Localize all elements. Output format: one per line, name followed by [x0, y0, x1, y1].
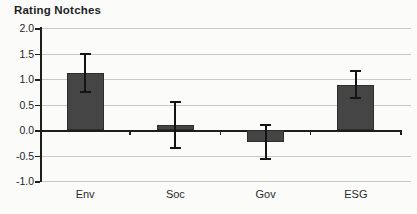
x-axis-tick — [400, 130, 402, 135]
gridline — [40, 181, 411, 182]
plot-area: 2.01.51.00.50.0-0.5-1.0EnvSocGovESG — [0, 0, 417, 214]
x-axis-tick — [310, 130, 312, 135]
error-bar-cap-bottom-soc — [170, 147, 181, 149]
rating-notches-bar-chart: Rating Notches 2.01.51.00.50.0-0.5-1.0En… — [0, 0, 417, 214]
error-bar-gov — [265, 125, 267, 159]
y-axis-tick-label: -1.0 — [0, 175, 34, 187]
y-axis-line — [40, 27, 42, 182]
error-bar-cap-bottom-gov — [260, 158, 271, 160]
x-axis-label-gov: Gov — [236, 188, 296, 200]
error-bar-cap-top-gov — [260, 124, 271, 126]
y-axis-tick-label: 1.5 — [0, 48, 34, 60]
x-axis-label-soc: Soc — [145, 188, 205, 200]
y-axis-tick-label: 0.5 — [0, 99, 34, 111]
gridline — [40, 156, 411, 157]
x-axis-tick — [129, 130, 131, 135]
error-bar-esg — [355, 71, 357, 98]
x-axis-label-env: Env — [55, 188, 115, 200]
x-axis-label-esg: ESG — [326, 188, 386, 200]
gridline — [40, 54, 411, 55]
error-bar-cap-bottom-env — [80, 91, 91, 93]
x-axis-tick — [220, 130, 222, 135]
y-axis-tick-label: 1.0 — [0, 73, 34, 85]
y-axis-tick-label: -0.5 — [0, 150, 34, 162]
error-bar-cap-bottom-esg — [350, 97, 361, 99]
error-bar-env — [84, 54, 86, 92]
gridline — [40, 28, 411, 29]
y-axis-tick-label: 0.0 — [0, 124, 34, 136]
error-bar-soc — [174, 102, 176, 148]
error-bar-cap-top-esg — [350, 70, 361, 72]
y-axis-tick-label: 2.0 — [0, 22, 34, 34]
error-bar-cap-top-env — [80, 53, 91, 55]
error-bar-cap-top-soc — [170, 101, 181, 103]
